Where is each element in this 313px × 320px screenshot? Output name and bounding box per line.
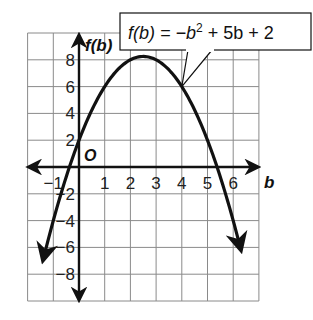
y-tick-label: −6 — [56, 238, 75, 257]
equation-callout: f(b) = −b2 + 5b + 2 — [120, 13, 311, 87]
x-tick-label: 2 — [126, 174, 135, 193]
y-tick-label: −4 — [56, 212, 75, 231]
y-tick-label: −8 — [56, 265, 75, 284]
y-tick-label: 4 — [66, 104, 75, 123]
y-tick-label: 8 — [66, 51, 75, 70]
x-tick-label: 5 — [203, 174, 212, 193]
x-tick-label: 3 — [151, 174, 160, 193]
x-tick-label: 1 — [100, 174, 109, 193]
parabola-graph: −1123456−8−6−4−22468 f(b) b O f(b) = −b2… — [0, 0, 313, 320]
x-axis-label: b — [264, 173, 274, 192]
x-tick-label: 6 — [228, 174, 237, 193]
origin-label: O — [84, 147, 97, 164]
y-tick-label: 6 — [66, 78, 75, 97]
axes — [29, 35, 258, 300]
x-tick-label: 4 — [177, 174, 186, 193]
y-tick-label: 2 — [66, 131, 75, 150]
y-axis-label: f(b) — [85, 36, 113, 55]
